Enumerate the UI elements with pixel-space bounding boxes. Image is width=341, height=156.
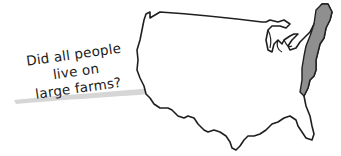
illustration: Did all people live on large farms? [0,0,341,156]
east-coast-highlight [300,4,332,96]
